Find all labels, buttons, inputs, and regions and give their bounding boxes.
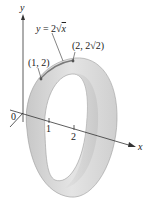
x-axis-arrow-icon (128, 142, 136, 147)
curve-label-arg: x (62, 23, 66, 34)
x-axis-label: x (138, 142, 142, 152)
origin-label: 0 (11, 112, 16, 122)
x-tick-label-1: 1 (46, 124, 51, 134)
curve-label-eq: = 2 (40, 23, 56, 34)
x-tick-label-2: 2 (71, 132, 76, 142)
surface-of-revolution-figure (0, 0, 149, 214)
y-axis-arrow-icon (21, 14, 25, 20)
point-2-2root2 (72, 60, 75, 63)
leader-point-1 (38, 68, 41, 78)
point-1-2 (40, 78, 43, 81)
point-1-label: (1, 2) (28, 58, 50, 68)
curve-label: y = 2√x (36, 24, 66, 34)
y-axis-label: y (20, 3, 24, 13)
leader-curve-label (52, 33, 63, 61)
point-2-label: (2, 2√2) (72, 41, 104, 51)
